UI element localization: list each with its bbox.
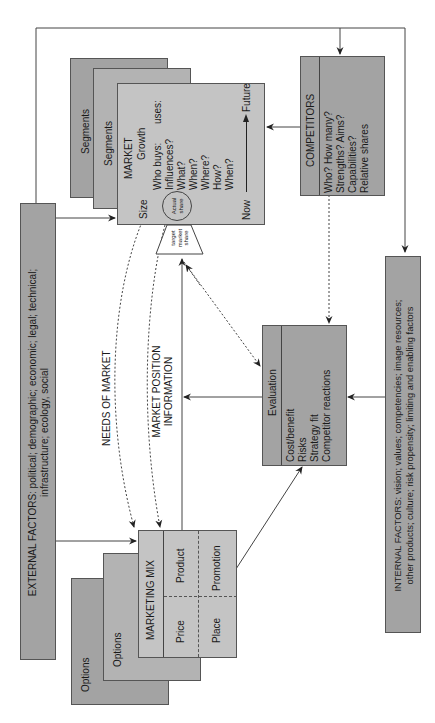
marketing-mix-place: Place <box>211 618 223 643</box>
options-back-label: Options <box>80 658 92 692</box>
market-question: How? <box>212 139 224 190</box>
internal-factors-line1: INTERNAL FACTORS: vision; values; compet… <box>392 264 404 627</box>
competitors-title: COMPETITORS <box>305 94 317 167</box>
market-question: What? <box>176 139 188 190</box>
marketing-mix-hdash <box>164 596 237 597</box>
market-growth: Growth <box>136 128 148 160</box>
evaluation-box: Evaluation Cost/benefit Risks Strategy f… <box>262 325 347 466</box>
now-future-arrow-icon <box>246 120 247 192</box>
market-question: When? <box>188 139 200 190</box>
market-size: Size <box>138 200 150 219</box>
market-question: Influences? <box>164 139 176 190</box>
marketing-mix-promotion: Promotion <box>211 545 223 591</box>
internal-factors-line2: other products; culture; risk propensity… <box>404 264 416 627</box>
evaluation-item: Competitor reactions <box>321 370 333 462</box>
competitors-item: Who? How many? <box>323 111 335 193</box>
competitors-item: Relative shares <box>359 111 371 193</box>
market-question: When? <box>224 139 236 190</box>
market-position-label: MARKET POSITION INFORMATION <box>151 339 175 444</box>
market-now: Now <box>241 200 253 220</box>
market-box: MARKET Growth Who buys: uses: Influences… <box>117 83 265 225</box>
evaluation-item: Strategy fit <box>309 370 321 462</box>
evaluation-item: Risks <box>297 370 309 462</box>
target-share-text: share <box>183 226 190 250</box>
market-uses: uses: <box>152 100 164 124</box>
market-future: Future <box>241 83 253 112</box>
evaluation-title: Evaluation <box>267 369 279 416</box>
marketing-mix-product: Product <box>175 549 187 583</box>
evaluation-item: Cost/benefit <box>285 370 297 462</box>
marketing-mix-divider <box>163 531 164 657</box>
competitors-items: Who? How many? Strengths? Aims? Capabili… <box>323 111 371 193</box>
actual-share-label: Actual <box>171 197 178 215</box>
target-share-label: target market share <box>170 226 190 250</box>
needs-of-market-label: NEEDS OF MARKET <box>101 350 113 446</box>
marketing-mix-title: MARKETING MIX <box>145 560 157 640</box>
competitors-item: Capabilities? <box>347 111 359 193</box>
market-question: Where? <box>200 139 212 190</box>
competitors-divider <box>319 57 320 195</box>
marketing-mix-price: Price <box>175 620 187 643</box>
segments-mid-label: Segments <box>103 121 115 166</box>
market-who-buys: Who buys: <box>152 143 164 190</box>
market-position-line1: MARKET POSITION <box>151 339 163 444</box>
actual-share-circle: Actual share <box>162 191 192 221</box>
external-factors-box: EXTERNAL FACTORS: political; demographic… <box>20 203 56 660</box>
competitors-item: Strengths? Aims? <box>335 111 347 193</box>
external-factors-line2: infrastructure; ecology, social <box>39 212 51 653</box>
actual-share-label: share <box>178 197 185 215</box>
evaluation-divider <box>281 326 282 465</box>
options-mid-label: Options <box>112 633 124 667</box>
competitors-box: COMPETITORS Who? How many? Strengths? Ai… <box>300 56 385 196</box>
external-factors-line1: EXTERNAL FACTORS: political; demographic… <box>27 212 39 653</box>
market-questions: Influences? What? When? Where? How? When… <box>164 139 236 190</box>
marketing-mix-box: MARKETING MIX Product Price Promotion Pl… <box>138 530 237 658</box>
now-future-arrowhead-icon <box>243 114 249 122</box>
market-position-line2: INFORMATION <box>163 339 175 444</box>
market-title: MARKET <box>123 137 135 179</box>
segments-back-label: Segments <box>80 109 92 154</box>
evaluation-items: Cost/benefit Risks Strategy fit Competit… <box>285 370 333 462</box>
marketing-mix-vdash <box>198 531 199 657</box>
internal-factors-box: INTERNAL FACTORS: vision; values; compet… <box>385 256 421 633</box>
